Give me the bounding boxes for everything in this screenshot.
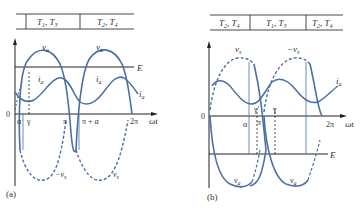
tick-alpha: α bbox=[17, 117, 22, 126]
va-label-1: va bbox=[42, 42, 49, 53]
panel-a-conduction-table: T1, T3 T2, T4 bbox=[16, 14, 134, 29]
va-dashed-rise-2 bbox=[308, 140, 320, 180]
vs-dashed-curve bbox=[76, 120, 128, 180]
tick-gamma: γ bbox=[272, 105, 277, 114]
x-axis-label: ωt bbox=[149, 116, 158, 126]
ia-curve bbox=[212, 79, 338, 104]
vs-label: vs bbox=[235, 44, 242, 55]
vs-label: vs bbox=[113, 170, 120, 180]
ia-label-1: ia bbox=[38, 74, 44, 85]
table-cell-t1-t3: T1, T3 bbox=[37, 17, 58, 28]
neg-vs-dashed-curve bbox=[264, 58, 310, 112]
va-falling-edge-2 bbox=[310, 64, 322, 116]
E-label: E bbox=[136, 63, 143, 73]
vs-dashed-curve bbox=[210, 58, 254, 110]
tick-alpha: α bbox=[243, 120, 248, 129]
table-cell-t1-t3: T1, T3 bbox=[266, 18, 287, 29]
va-label-1: va bbox=[234, 176, 241, 186]
ia-curve bbox=[15, 77, 138, 104]
tick-2pi: 2π bbox=[130, 117, 138, 126]
va-label-2: va bbox=[290, 176, 297, 186]
va-lobe-2 bbox=[264, 116, 308, 186]
ia-label-3: ia bbox=[139, 89, 145, 100]
tick-0: 0 bbox=[6, 110, 10, 119]
x-axis-arrow-icon bbox=[340, 114, 347, 118]
tick-gamma-prime: γ′ bbox=[253, 105, 260, 114]
y-axis-arrow-icon bbox=[13, 38, 17, 45]
panel-a-caption: (a) bbox=[6, 189, 16, 199]
panel-b: T2, T4 T1, T3 T2, T4 vs −vs ia bbox=[201, 15, 354, 202]
tick-pi: π bbox=[257, 118, 261, 127]
tick-gamma: γ bbox=[26, 117, 31, 126]
y-axis-arrow-icon bbox=[207, 41, 211, 48]
ia-label: ia bbox=[336, 76, 342, 87]
table-cell-t2-t4-left: T2, T4 bbox=[219, 18, 240, 29]
panel-b-conduction-table: T2, T4 T1, T3 T2, T4 bbox=[210, 15, 343, 30]
tick-0: 0 bbox=[201, 112, 205, 121]
x-axis-label: ωt bbox=[345, 119, 354, 129]
table-cell-t2-t4: T2, T4 bbox=[97, 17, 118, 28]
table-cell-t2-t4-right: T2, T4 bbox=[312, 18, 333, 29]
va-label-2: va bbox=[96, 42, 103, 53]
tick-2pi: 2π bbox=[326, 120, 334, 129]
neg-vs-label: −vs bbox=[55, 170, 67, 180]
tick-pi-plus-alpha: π + α bbox=[82, 117, 100, 126]
E-label: E bbox=[329, 150, 336, 160]
va-curve bbox=[19, 50, 132, 152]
panel-b-caption: (b) bbox=[207, 192, 218, 202]
figure-canvas: T1, T3 T2, T4 va va ia ia ia bbox=[0, 0, 362, 214]
tick-pi: π bbox=[63, 117, 67, 126]
panel-a: T1, T3 T2, T4 va va ia ia ia bbox=[6, 14, 158, 199]
ia-label-2: ia bbox=[96, 74, 102, 85]
neg-vs-label: −vs bbox=[287, 44, 300, 55]
panel-a-axes bbox=[13, 38, 158, 186]
